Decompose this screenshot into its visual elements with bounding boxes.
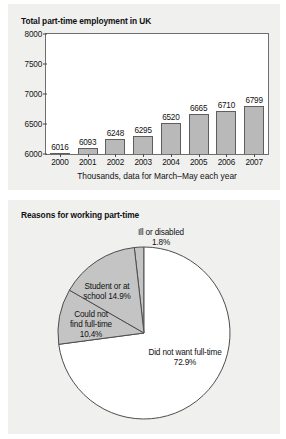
- bar-chart-bar: [105, 139, 125, 154]
- bar-chart-x-axis-label: Thousands, data for March–May each year: [45, 171, 269, 181]
- bar-chart-y-tick-label: 7500: [25, 60, 42, 69]
- bar-chart-value-label: 6710: [218, 101, 235, 110]
- bar-chart-value-label: 6520: [162, 113, 179, 122]
- bar-chart-value-label: 6248: [107, 129, 124, 138]
- bar-chart-column: 65202004: [161, 34, 181, 154]
- bar-chart-x-tick-mark: [60, 154, 61, 157]
- bar-chart-x-tick-label: 2007: [245, 158, 262, 167]
- bar-chart-column: 67102006: [216, 34, 236, 154]
- bar-chart-column: 60932001: [78, 34, 98, 154]
- bar-chart-value-label: 6093: [79, 138, 96, 147]
- bar-chart-value-label: 6016: [51, 143, 68, 152]
- figure-page: Total part-time employment in UK 6000650…: [0, 0, 286, 439]
- bar-chart-x-tick-label: 2006: [218, 158, 235, 167]
- bar-chart-x-tick-label: 2002: [107, 158, 124, 167]
- bar-chart-value-label: 6799: [245, 96, 262, 105]
- bar-chart-bar: [133, 136, 153, 154]
- bar-chart-x-tick-label: 2004: [162, 158, 179, 167]
- bar-chart-bar: [189, 114, 209, 154]
- bar-chart-bar: [244, 106, 264, 154]
- bar-chart-x-tick-label: 2005: [190, 158, 207, 167]
- bar-chart-x-tick-mark: [226, 154, 227, 157]
- bar-chart-x-tick-mark: [199, 154, 200, 157]
- bar-chart-y-tick-label: 8000: [25, 30, 42, 39]
- bar-chart-column: 67992007: [244, 34, 264, 154]
- bar-chart-x-tick-mark: [254, 154, 255, 157]
- bar-chart-y-tick-label: 6500: [25, 120, 42, 129]
- pie-slice-label-could-not-find-full-time: Could notfind full-time10.4%: [60, 310, 122, 340]
- pie-chart-figure: Reasons for working part-time Ill or dis…: [8, 200, 280, 434]
- bar-chart-value-label: 6665: [190, 104, 207, 113]
- bar-chart-x-tick-mark: [171, 154, 172, 157]
- bar-chart-column: 62482002: [105, 34, 125, 154]
- bar-chart-value-label: 6295: [134, 126, 151, 135]
- pie-slice-label-student-or-at-school: Student or atschool 14.9%: [74, 282, 140, 302]
- bar-chart-bar: [161, 123, 181, 154]
- pie-slice-label-ill-or-disabled: Ill or disabled1.8%: [116, 228, 206, 248]
- bar-chart-x-tick-mark: [143, 154, 144, 157]
- bar-chart-column: 62952003: [133, 34, 153, 154]
- bar-chart-x-tick-mark: [88, 154, 89, 157]
- bar-chart-x-tick-label: 2000: [51, 158, 68, 167]
- bar-chart-x-tick-mark: [115, 154, 116, 157]
- bar-chart-column: 60162000: [50, 34, 70, 154]
- pie-slice-label-did-not-want-full-time: Did not want full-time72.9%: [130, 348, 240, 368]
- bar-chart-bar: [216, 111, 236, 154]
- bar-chart-column: 66652005: [189, 34, 209, 154]
- bar-chart-y-tick-label: 6000: [25, 150, 42, 159]
- bar-chart-title: Total part-time employment in UK: [21, 16, 151, 26]
- bar-chart-plot-area: 60006500700075008000 6016200060932001624…: [45, 33, 269, 155]
- bar-chart-x-tick-label: 2001: [79, 158, 96, 167]
- bar-chart-bars: 6016200060932001624820026295200365202004…: [46, 34, 268, 154]
- bar-chart-y-tick-label: 7000: [25, 90, 42, 99]
- pie-chart-plot-area: Ill or disabled1.8% Student or atschool …: [8, 200, 280, 434]
- bar-chart-figure: Total part-time employment in UK 6000650…: [8, 4, 280, 190]
- bar-chart-x-tick-label: 2003: [134, 158, 151, 167]
